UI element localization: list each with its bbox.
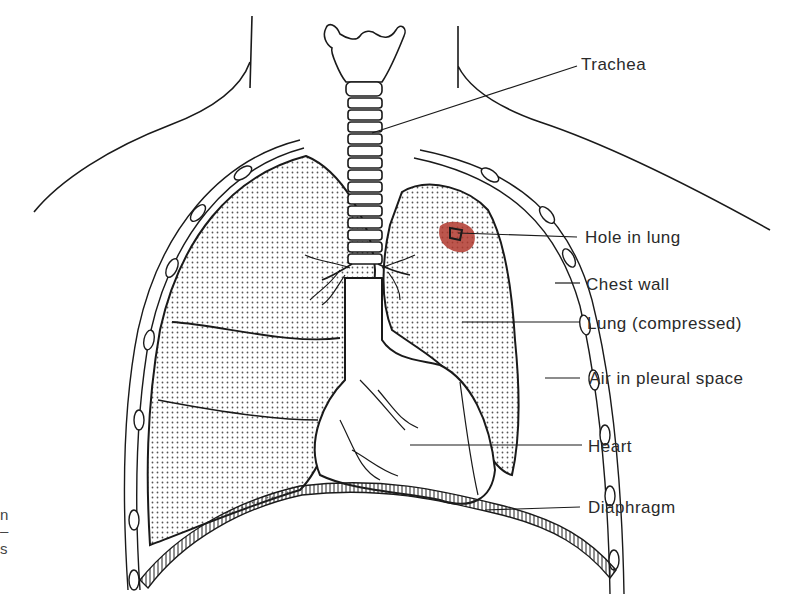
anatomy-illustration (0, 0, 804, 594)
label-hole-in-lung: Hole in lung (585, 228, 681, 248)
diagram-canvas: Trachea Hole in lung Chest wall Lung (co… (0, 0, 804, 594)
label-chest-wall: Chest wall (586, 275, 669, 295)
label-heart: Heart (588, 437, 632, 457)
label-trachea: Trachea (581, 55, 646, 75)
label-air-in-pleural-space: Air in pleural space (589, 369, 744, 389)
label-lung-compressed: Lung (compressed) (587, 314, 742, 334)
caption-fragment: n (0, 506, 8, 523)
caption-fragment: s (0, 540, 8, 557)
caption-fragment: – (0, 522, 8, 539)
label-diaphragm: Diaphragm (588, 498, 676, 518)
